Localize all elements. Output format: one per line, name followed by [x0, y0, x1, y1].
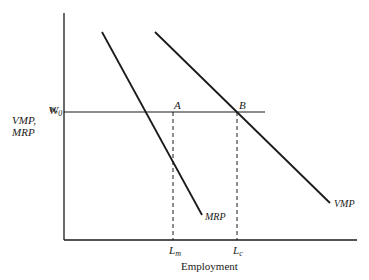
- labor-market-diagram: [0, 0, 369, 280]
- x-axis-label: Employment: [181, 260, 238, 272]
- wage-label: W0: [49, 104, 62, 120]
- tick-lm: Lm: [169, 244, 181, 260]
- point-a-label: A: [174, 99, 181, 111]
- tick-lc: Lc: [233, 244, 243, 260]
- vmp-curve-label: VMP: [334, 198, 355, 210]
- mrp-curve-label: MRP: [205, 211, 226, 223]
- point-b-label: B: [239, 99, 246, 111]
- mrp-curve: [102, 32, 202, 215]
